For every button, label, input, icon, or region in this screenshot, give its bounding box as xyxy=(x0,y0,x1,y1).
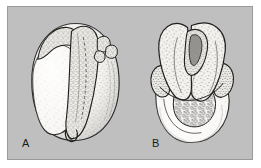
panel-b-label: B xyxy=(152,138,160,149)
panel-b-illustration xyxy=(130,7,252,159)
figure-root: A xyxy=(0,0,261,168)
panel-b: B xyxy=(130,7,252,159)
panel-a-label: A xyxy=(22,138,30,149)
panel-a: A xyxy=(8,7,130,159)
figure-plate: A xyxy=(7,6,253,160)
